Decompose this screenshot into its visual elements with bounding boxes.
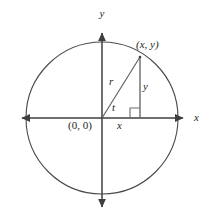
adjacent-side-label: x [117,120,122,131]
radius-label: r [109,76,113,87]
x-axis-label: x [194,112,199,123]
y-axis-label: y [100,8,105,19]
unit-circle-figure: y x (x, y) (0, 0) r t y x [0,0,210,223]
origin-coordinates-label: (0, 0) [68,120,92,131]
point-coordinates-label: (x, y) [136,39,159,50]
radius-segment [102,57,140,118]
angle-label: t [112,102,115,113]
opposite-side-label: y [143,81,148,92]
unit-circle-drawing [0,0,210,223]
point-marker [139,56,142,59]
right-angle-marker [130,108,140,118]
